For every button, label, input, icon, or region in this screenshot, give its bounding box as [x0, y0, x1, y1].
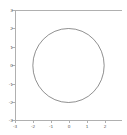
x-tick-label: -2 [26, 124, 40, 129]
x-tick-label: 0 [62, 124, 76, 129]
circle-curve [33, 29, 104, 103]
x-tick-label: 2 [98, 124, 112, 129]
y-tick-label: 3 [1, 8, 13, 13]
y-tick-label: 2 [1, 26, 13, 31]
data-series-circle [15, 10, 122, 121]
y-tick-label: -2 [1, 100, 13, 105]
y-tick-label: 0 [1, 63, 13, 68]
figure-canvas: 3 2 1 0 -1 -2 -3 -3 -2 -1 0 1 2 [0, 0, 127, 135]
y-tick-label: -1 [1, 82, 13, 87]
x-tick-label: 1 [80, 124, 94, 129]
y-tick-label: 1 [1, 45, 13, 50]
x-tick-label: -3 [8, 124, 22, 129]
y-tick-label: -3 [1, 118, 13, 123]
x-tick-label: -1 [44, 124, 58, 129]
plot-area [15, 10, 122, 121]
